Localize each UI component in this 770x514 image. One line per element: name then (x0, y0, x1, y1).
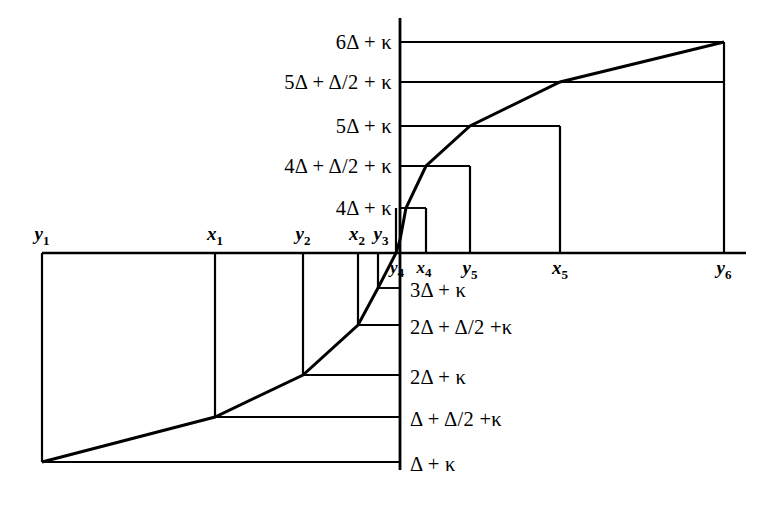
x-tick-label-x5: x5 (552, 257, 568, 283)
y-level-label-4d-half-k: 4Δ + Δ/2 + κ (120, 155, 392, 178)
x-tick-label-y3: y3 (374, 223, 389, 249)
y-level-label-2d-k: 2Δ + κ (410, 366, 710, 389)
x-tick-label-x1: x1 (207, 223, 223, 249)
x-tick-label-y4: y4 (390, 258, 404, 281)
y-level-label-6d-k: 6Δ + κ (120, 31, 392, 54)
level-lines-below-axis (42, 288, 400, 462)
level-lines-above-axis (400, 42, 724, 208)
x-tick-label-y6: y6 (717, 257, 732, 283)
x-tick-label-y1: y1 (35, 223, 50, 249)
x-tick-label-x2: x2 (349, 223, 365, 249)
x-tick-label-y5: y5 (463, 257, 478, 283)
y-level-label-1d-k: Δ + κ (410, 453, 710, 476)
y-level-label-5d-half-k: 5Δ + Δ/2 + κ (120, 71, 392, 94)
y-level-label-4d-k: 4Δ + κ (120, 197, 392, 220)
x-tick-label-x4: x4 (417, 258, 432, 281)
figure-canvas: 6Δ + κ 5Δ + Δ/2 + κ 5Δ + κ 4Δ + Δ/2 + κ … (0, 0, 770, 514)
y-level-label-1d-half-k: Δ + Δ/2 +κ (410, 408, 710, 431)
y-level-label-2d-half-k: 2Δ + Δ/2 +κ (410, 316, 710, 339)
x-tick-label-y2: y2 (296, 223, 311, 249)
y-level-label-5d-k: 5Δ + κ (120, 115, 392, 138)
